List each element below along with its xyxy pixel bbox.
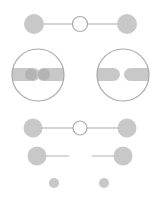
right-node-icon — [114, 147, 133, 166]
hollow-center-node-icon — [73, 121, 87, 135]
connected-row — [24, 14, 137, 34]
left-node-icon — [28, 147, 47, 166]
magnified-plugs — [8, 49, 156, 101]
connected-row-2 — [24, 119, 137, 138]
small-dot-icon — [49, 178, 59, 188]
lens-disconnected — [93, 49, 156, 101]
diagram-canvas — [0, 0, 158, 200]
connection-diagram — [0, 0, 158, 200]
small-dot-icon — [99, 178, 109, 188]
plug-left-dot-icon — [25, 69, 37, 81]
disconnected-row — [28, 147, 133, 166]
lens-connected — [8, 49, 69, 101]
left-node-icon — [24, 14, 44, 34]
plug-right-dot-icon — [38, 69, 50, 81]
right-node-icon — [118, 119, 137, 138]
right-node-icon — [117, 14, 137, 34]
small-dots-row — [49, 178, 109, 188]
left-node-icon — [24, 119, 43, 138]
hollow-center-node-icon — [73, 17, 88, 32]
